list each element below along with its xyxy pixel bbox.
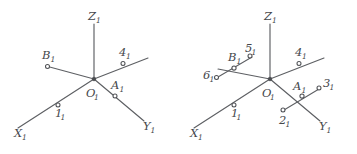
label-point-5-1-right: 5 1	[245, 41, 256, 57]
svg-text:1: 1	[237, 113, 242, 122]
segment-origin-4-1-left	[94, 58, 148, 79]
point-marker-6-1-right	[215, 76, 219, 80]
svg-text:1: 1	[94, 93, 99, 102]
svg-text:1: 1	[286, 120, 291, 129]
svg-text:1: 1	[270, 93, 275, 102]
svg-text:1: 1	[61, 113, 66, 122]
label-point-6-1-right: 6 1	[203, 68, 214, 84]
point-marker-origin-right	[268, 77, 272, 81]
point-marker-4-1-left	[121, 62, 125, 66]
label-y-axis-left: Y 1	[143, 119, 155, 135]
svg-text:1: 1	[120, 85, 125, 94]
label-z-axis-left: Z 1	[87, 9, 101, 25]
label-point-1-1-left: 1 1	[55, 106, 65, 122]
segment-b1-origin-right	[218, 69, 270, 79]
label-point-2-1-right: 2 1	[278, 113, 290, 129]
point-marker-A1-right	[300, 94, 304, 98]
svg-text:1: 1	[198, 133, 203, 142]
svg-text:A: A	[292, 79, 301, 93]
svg-text:A: A	[110, 78, 119, 92]
svg-text:1: 1	[302, 52, 307, 61]
label-point-A1-right: A 1	[292, 79, 306, 95]
point-marker-A1-left	[113, 94, 117, 98]
figure-root: Z 1 X 1 Y 1 O 1 B 1 4 1 A 1	[0, 0, 357, 154]
point-marker-origin-left	[92, 77, 96, 81]
diagram-left: Z 1 X 1 Y 1 O 1 B 1 4 1 A 1	[0, 0, 178, 154]
label-point-1-1-right: 1 1	[231, 106, 241, 122]
label-z-axis-right: Z 1	[263, 9, 277, 25]
svg-text:1: 1	[237, 57, 242, 66]
label-x-axis-left: X 1	[13, 126, 27, 142]
svg-text:1: 1	[22, 133, 27, 142]
svg-text:1: 1	[151, 126, 156, 135]
svg-text:1: 1	[51, 55, 56, 64]
point-marker-4-1-right	[297, 62, 301, 66]
point-marker-B1-left	[46, 65, 50, 69]
point-marker-B1-right	[232, 66, 236, 70]
svg-text:1: 1	[252, 48, 257, 57]
diagram-right: Z 1 X 1 Y 1 O 1 B 1 5 1 6 1	[178, 0, 357, 154]
svg-text:1: 1	[302, 86, 307, 95]
point-marker-3-1-right	[317, 86, 321, 90]
svg-text:1: 1	[272, 16, 277, 25]
svg-text:B: B	[227, 50, 236, 64]
label-point-4-1-left: 4 1	[118, 45, 131, 61]
segment-b1-origin-left	[46, 66, 94, 79]
label-x-axis-right: X 1	[189, 126, 203, 142]
svg-text:1: 1	[126, 52, 131, 61]
point-marker-2-1-right	[281, 108, 285, 112]
svg-text:1: 1	[210, 75, 215, 84]
label-point-B1-left: B 1	[41, 48, 55, 64]
svg-text:1: 1	[330, 83, 335, 92]
label-point-A1-left: A 1	[110, 78, 124, 94]
svg-text:1: 1	[327, 126, 332, 135]
label-point-4-1-right: 4 1	[294, 45, 307, 61]
label-y-axis-right: Y 1	[319, 119, 331, 135]
label-point-B1-right: B 1	[227, 50, 241, 66]
svg-text:1: 1	[96, 16, 101, 25]
label-origin-right: O 1	[262, 86, 275, 102]
svg-text:B: B	[41, 48, 50, 62]
label-origin-left: O 1	[86, 86, 99, 102]
label-point-3-1-right: 3 1	[323, 76, 334, 92]
segment-origin-4-1-right	[270, 58, 324, 79]
